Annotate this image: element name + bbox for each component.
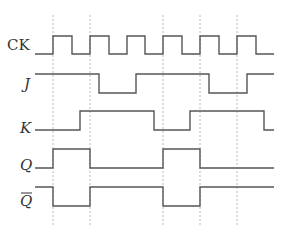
label-j: J xyxy=(21,75,31,93)
signal-waveforms xyxy=(35,36,274,206)
label-q-bar: Q xyxy=(20,192,32,210)
waveform-j xyxy=(35,74,274,93)
waveform-ck xyxy=(35,36,274,54)
label-k: K xyxy=(19,119,32,137)
jk-flipflop-timing-diagram: CKJKQQ xyxy=(0,0,287,238)
signal-labels: CKJKQQ xyxy=(7,36,32,210)
waveform-q-bar xyxy=(35,187,274,206)
waveform-q xyxy=(35,149,274,168)
waveform-k xyxy=(35,111,274,130)
label-q: Q xyxy=(20,156,32,174)
label-ck: CK xyxy=(7,36,30,54)
